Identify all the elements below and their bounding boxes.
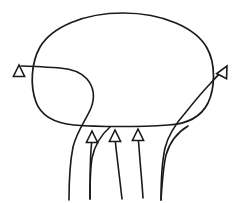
flow-diagram-canvas: [0, 0, 247, 203]
flow-diagram-svg: [0, 0, 247, 203]
rounded-oval-body: [32, 13, 213, 127]
